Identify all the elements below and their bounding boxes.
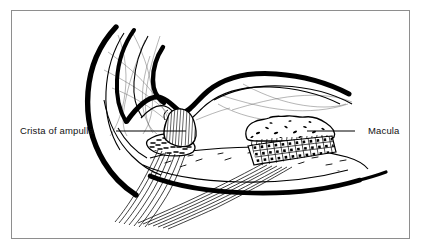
outer-wall-second-arc [117,30,134,122]
label-crista-of-ampulla: Crista of ampulla [20,125,94,136]
outer-wall-left-arc [88,27,136,195]
label-macula: Macula [368,125,400,136]
outer-wall-hook-arc [153,47,164,103]
outer-wall-bottom-right [150,176,360,193]
nerve-bundle-macula [138,164,292,229]
anatomy-figure: Crista of ampulla Macula [0,0,423,251]
diagram-ink: Crista of ampulla Macula [20,27,400,229]
stroma-lower-edge [143,165,348,182]
outer-wall-bottom-right-taper [356,172,386,181]
labyrinth-diagram: Crista of ampulla Macula [0,0,423,251]
outer-wall-central-wave [127,74,349,121]
